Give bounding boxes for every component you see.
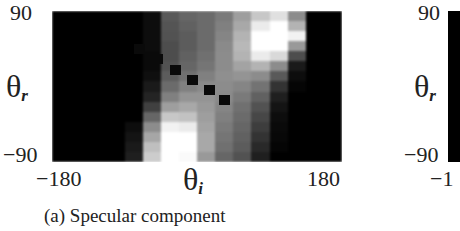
heatmap-cell — [197, 41, 215, 51]
heatmap-cell — [306, 122, 324, 132]
heatmap-cell — [288, 132, 306, 142]
heatmap-cell — [143, 102, 161, 112]
heatmap-cell — [324, 41, 342, 51]
heatmap-cell — [88, 21, 106, 31]
heatmap-cell — [106, 21, 124, 31]
heatmap-cell — [52, 61, 70, 71]
heatmap-cell — [70, 51, 88, 61]
heatmap-cell — [70, 92, 88, 102]
heatmap-cell — [306, 11, 324, 21]
heatmap-cell — [270, 71, 288, 81]
diagonal-marker — [204, 85, 215, 95]
heatmap-cell — [288, 51, 306, 61]
heatmap-cell — [197, 122, 215, 132]
heatmap-cell — [161, 122, 179, 132]
heatmap-cell — [125, 11, 143, 21]
diagonal-marker — [152, 54, 163, 64]
heatmap-cell — [106, 152, 124, 162]
x-tick-minus-180: −180 — [36, 168, 81, 190]
heatmap-cell — [70, 41, 88, 51]
heatmap-cell — [52, 31, 70, 41]
heatmap-cell — [106, 142, 124, 152]
heatmap-cell — [251, 102, 269, 112]
heatmap-cell — [251, 152, 269, 162]
heatmap-cell — [251, 112, 269, 122]
heatmap-cell — [324, 11, 342, 21]
heatmap-cell — [251, 31, 269, 41]
heatmap-cell — [251, 132, 269, 142]
heatmap-cell — [125, 152, 143, 162]
heatmap-cell — [251, 11, 269, 21]
heatmap-cell — [106, 81, 124, 91]
heatmap-cell — [143, 31, 161, 41]
heatmap-cell — [324, 71, 342, 81]
heatmap-cell — [270, 51, 288, 61]
heatmap-cell — [88, 152, 106, 162]
heatmap-cell — [52, 51, 70, 61]
heatmap-cell — [215, 142, 233, 152]
heatmap-cell — [125, 102, 143, 112]
heatmap-plot-area — [52, 11, 342, 162]
heatmap-cell — [143, 112, 161, 122]
heatmap-cell — [52, 142, 70, 152]
heatmap-cell — [233, 152, 251, 162]
heatmap-cell — [143, 92, 161, 102]
heatmap-cell — [125, 132, 143, 142]
x-tick-180: 180 — [307, 168, 340, 190]
heatmap-cell — [324, 102, 342, 112]
panel-b-x-tick-left: −1 — [430, 168, 453, 190]
heatmap-cell — [125, 142, 143, 152]
x-axis-label: θi — [183, 163, 203, 197]
heatmap-cell — [88, 51, 106, 61]
heatmap-cell — [125, 92, 143, 102]
heatmap-cell — [306, 81, 324, 91]
heatmap-cell — [88, 102, 106, 112]
heatmap-cell — [106, 41, 124, 51]
heatmap-cell — [324, 122, 342, 132]
heatmap-cell — [215, 51, 233, 61]
heatmap-cell — [215, 152, 233, 162]
heatmap-cell — [324, 132, 342, 142]
heatmap-cell — [270, 112, 288, 122]
heatmap-cell — [52, 11, 70, 21]
heatmap-cell — [143, 132, 161, 142]
heatmap-cell — [161, 11, 179, 21]
heatmap-cell — [324, 61, 342, 71]
heatmap-cell — [251, 51, 269, 61]
heatmap-cell — [70, 21, 88, 31]
figure-caption: (a) Specular component — [44, 205, 225, 227]
heatmap-cell — [251, 61, 269, 71]
heatmap-cell — [143, 81, 161, 91]
heatmap-cell — [179, 102, 197, 112]
heatmap-cell — [288, 112, 306, 122]
heatmap-cell — [197, 51, 215, 61]
heatmap-cell — [88, 112, 106, 122]
heatmap-cell — [233, 51, 251, 61]
heatmap-cell — [288, 92, 306, 102]
heatmap-cell — [70, 142, 88, 152]
heatmap-cell — [306, 31, 324, 41]
heatmap-cell — [288, 21, 306, 31]
heatmap-cell — [161, 132, 179, 142]
diagonal-marker — [134, 44, 145, 54]
heatmap-cell — [88, 122, 106, 132]
heatmap-cell — [306, 71, 324, 81]
diagonal-marker — [219, 95, 230, 105]
heatmap-grid — [52, 11, 342, 162]
heatmap-cell — [52, 41, 70, 51]
heatmap-cell — [143, 152, 161, 162]
heatmap-cell — [143, 71, 161, 81]
heatmap-cell — [106, 11, 124, 21]
heatmap-cell — [306, 142, 324, 152]
heatmap-cell — [197, 11, 215, 21]
heatmap-cell — [161, 152, 179, 162]
heatmap-cell — [125, 81, 143, 91]
heatmap-cell — [52, 112, 70, 122]
heatmap-cell — [215, 41, 233, 51]
heatmap-cell — [324, 31, 342, 41]
heatmap-cell — [306, 41, 324, 51]
diagonal-marker — [170, 65, 181, 75]
heatmap-cell — [270, 21, 288, 31]
heatmap-cell — [161, 41, 179, 51]
heatmap-cell — [106, 102, 124, 112]
